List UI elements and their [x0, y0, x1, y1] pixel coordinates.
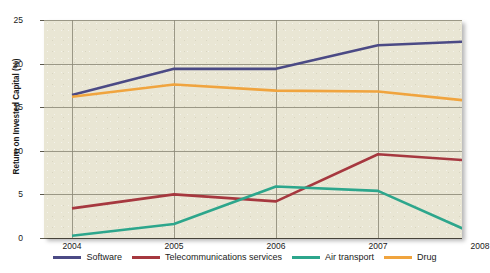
y-tick-label: 15 — [0, 102, 23, 112]
y-tick-label: 10 — [0, 146, 23, 156]
legend-swatch-icon — [53, 256, 81, 259]
x-tick-label: 2005 — [152, 241, 196, 251]
series-line-software — [72, 41, 462, 95]
x-tick-label: 2004 — [50, 241, 94, 251]
legend-item[interactable]: Software — [53, 252, 122, 262]
y-tick-label: 20 — [0, 59, 23, 69]
legend-swatch-icon — [384, 256, 412, 259]
series-line-drug — [72, 85, 462, 102]
legend-label: Air transport — [325, 252, 374, 262]
legend-swatch-icon — [132, 256, 160, 259]
legend-item[interactable]: Air transport — [292, 252, 374, 262]
series-line-air-transport — [72, 187, 462, 237]
y-tick-label: 25 — [0, 15, 23, 25]
y-tick-label: 5 — [0, 189, 23, 199]
legend-item[interactable]: Telecommunications services — [132, 252, 282, 262]
chart-legend: SoftwareTelecommunications servicesAir t… — [0, 252, 490, 262]
x-tick-label: 2006 — [254, 241, 298, 251]
legend-label: Drug — [417, 252, 437, 262]
legend-item[interactable]: Drug — [384, 252, 437, 262]
series-line-telecommunications-services — [72, 154, 462, 208]
x-tick-label: 2008 — [458, 241, 490, 251]
legend-swatch-icon — [292, 256, 320, 259]
legend-label: Software — [86, 252, 122, 262]
series-lines — [44, 20, 462, 238]
plot-area — [44, 20, 462, 238]
chart-figure: Return on Invested Capital (%) 252015105… — [0, 0, 490, 273]
legend-label: Telecommunications services — [165, 252, 282, 262]
x-tick-label: 2007 — [356, 241, 400, 251]
y-axis-title: Return on Invested Capital (%) — [12, 17, 21, 217]
y-tick-label: 0 — [0, 233, 23, 243]
x-axis-line — [44, 238, 462, 239]
